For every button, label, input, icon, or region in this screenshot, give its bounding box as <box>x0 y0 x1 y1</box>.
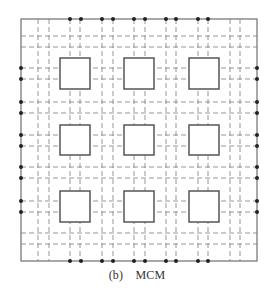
pin-dot-right <box>255 133 259 137</box>
pin-dot-bottom <box>132 259 136 263</box>
pin-dot-left <box>19 176 23 180</box>
pin-dot-right <box>255 176 259 180</box>
pin-dot-top <box>164 17 168 21</box>
chip-array <box>60 58 219 222</box>
pin-dot-bottom <box>164 259 168 263</box>
chip-square <box>124 125 154 155</box>
chip-square <box>60 125 90 155</box>
pin-dot-bottom <box>196 259 200 263</box>
pin-dot-left <box>19 100 23 104</box>
pin-dot-top <box>79 17 83 21</box>
pin-dot-top <box>196 17 200 21</box>
pin-dot-bottom <box>111 259 115 263</box>
pin-dot-top <box>174 17 178 21</box>
figure-caption: (b) MCM <box>0 268 274 283</box>
pin-dot-right <box>255 199 259 203</box>
pin-dot-left <box>19 77 23 81</box>
pin-dot-top <box>143 17 147 21</box>
pin-dot-bottom <box>143 259 147 263</box>
pin-dot-right <box>255 100 259 104</box>
pin-dot-top <box>100 17 104 21</box>
chip-square <box>124 58 154 89</box>
pin-dot-left <box>19 165 23 169</box>
pin-dot-right <box>255 66 259 70</box>
pin-dot-left <box>19 199 23 203</box>
mcm-diagram <box>0 0 274 291</box>
pin-dot-bottom <box>68 259 72 263</box>
caption-label: (b) <box>109 268 124 283</box>
pin-dot-right <box>255 165 259 169</box>
pin-dot-bottom <box>174 259 178 263</box>
chip-square <box>189 58 219 89</box>
pin-dot-top <box>68 17 72 21</box>
chip-square <box>189 125 219 155</box>
pin-dot-right <box>255 210 259 214</box>
chip-square <box>124 191 154 222</box>
chip-square <box>60 58 90 89</box>
chip-square <box>60 191 90 222</box>
pin-dot-bottom <box>100 259 104 263</box>
pin-dot-left <box>19 111 23 115</box>
pin-dot-right <box>255 77 259 81</box>
pin-dot-right <box>255 144 259 148</box>
pin-dot-top <box>132 17 136 21</box>
pin-dot-left <box>19 210 23 214</box>
pin-dot-right <box>255 111 259 115</box>
pin-dot-left <box>19 66 23 70</box>
pin-dot-bottom <box>79 259 83 263</box>
pin-dot-bottom <box>206 259 210 263</box>
pin-dot-top <box>111 17 115 21</box>
caption-title: MCM <box>135 268 165 283</box>
pin-dot-left <box>19 133 23 137</box>
pin-dot-top <box>206 17 210 21</box>
pin-dot-left <box>19 144 23 148</box>
chip-square <box>189 191 219 222</box>
